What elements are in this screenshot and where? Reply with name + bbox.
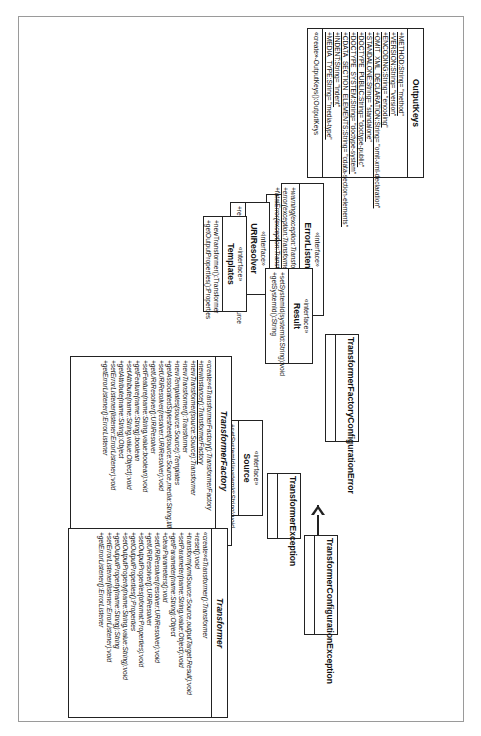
operations: +newTransformer():Transformer +getOutput… xyxy=(202,217,222,311)
operation: +setErrorListener(listener:ErrorListener… xyxy=(105,532,113,714)
attribute: +STANDALONE:String= "standalone" xyxy=(365,32,373,174)
class-transformer: Transformer «create»#Transformer():Trans… xyxy=(68,528,228,718)
attribute: +METHOD:String= "method" xyxy=(397,32,405,174)
operations: «create»#Transformer():Transformer +rese… xyxy=(95,529,211,717)
interface-templates: «interface» Templates +newTransformer():… xyxy=(203,216,247,312)
attribute: +OMIT_XML_DECLARATION:String= "omit-xml-… xyxy=(373,32,381,174)
interface-result: «interface» Result +setSystemId(systemId… xyxy=(265,268,313,364)
operation: +newTemplates(source:Source):Templates xyxy=(173,360,181,542)
stereotype: «interface» xyxy=(302,271,310,361)
class-transformerconfigurationexception: TransformerConfigurationException xyxy=(304,535,338,635)
class-name: TransformerFactoryConfigurationError xyxy=(346,337,356,439)
operation: +getOutputProperty(name:String):String xyxy=(113,532,121,714)
operation: +newInstance():TransformerFactory xyxy=(197,360,205,542)
operation: +getURIResolver():URIResolver xyxy=(149,360,157,542)
class-transformerfactory: TransformerFactory «create»#TransformerF… xyxy=(70,356,232,546)
attribute: +VERSION:String= "version" xyxy=(389,32,397,174)
class-outputkeys: OutputKeys +METHOD:String= "method" +VER… xyxy=(307,28,424,178)
class-transformerexception: TransformerException xyxy=(267,473,301,539)
class-header: Transformer xyxy=(211,529,227,717)
operation: +clearParameters():void xyxy=(161,532,169,714)
operation: +getSystemId():String xyxy=(270,272,278,360)
operation: +setSystemId(systemId:String):void xyxy=(278,272,286,360)
operation: +setErrorListener(listener:ErrorListener… xyxy=(109,360,117,542)
operation: +setOutputProperty(name:String,value:Str… xyxy=(121,532,129,714)
class-name: URIResolver xyxy=(249,205,259,292)
operation: +newTransformer(source:Source):Transform… xyxy=(189,360,197,542)
class-name: Result xyxy=(292,271,302,361)
operation: +getURIResolver():URIResolver xyxy=(145,532,153,714)
class-header: TransformerConfigurationException xyxy=(314,536,337,634)
operation: +getAssociatedStylesheet(source:Source,m… xyxy=(165,360,173,542)
attribute: +MEDIA_TYPE:String= "media-type" xyxy=(325,32,333,174)
generalization-arrowhead-inner xyxy=(314,509,322,515)
stereotype: «interface» xyxy=(252,423,260,513)
operation: +setFeature(name:String,value:boolean):v… xyxy=(141,360,149,542)
attribute: +DOCTYPE_SYSTEM:String= "doctype-system" xyxy=(349,32,357,174)
operation: +newTransformer():Transformer xyxy=(212,220,220,308)
operation: «create»-OutputKeys():OutputKeys xyxy=(312,32,320,174)
operation: +setOutputProperties(oformat:Properties)… xyxy=(137,532,145,714)
stereotype: «interface» xyxy=(313,186,321,313)
operation: +setParameter(name:String,value:Object):… xyxy=(177,532,185,714)
class-header: «interface» Result xyxy=(288,269,312,363)
operation: +reset():void xyxy=(193,532,201,714)
class-name: TransformerConfigurationException xyxy=(325,538,335,632)
class-header: «interface» Source xyxy=(238,421,262,515)
operation: +setURIResolver(resolver:URIResolver):vo… xyxy=(153,532,161,714)
operation: +setURIResolver(resolver:URIResolver):vo… xyxy=(157,360,165,542)
class-name: Source xyxy=(242,423,252,513)
operation: «create»#Transformer():Transformer xyxy=(201,532,209,714)
operation: «create»#TransformerFactory():Transforme… xyxy=(205,360,213,542)
class-name: OutputKeys xyxy=(411,31,421,175)
class-name: TransformerException xyxy=(288,476,298,536)
attribute: +INDENT:String= "indent" xyxy=(333,32,341,174)
operations: «create»#TransformerFactory():Transforme… xyxy=(99,357,215,545)
attribute: +DOCTYPE_PUBLIC:String= "doctype-public" xyxy=(357,32,365,174)
operation: +getParameter(name:String):Object xyxy=(169,532,177,714)
operations: «create»-OutputKeys():OutputKeys xyxy=(310,29,322,177)
operations: +setSystemId(systemId:String):void +getS… xyxy=(268,269,288,363)
class-transformerfactoryconfigurationerror: TransformerFactoryConfigurationError xyxy=(325,334,359,442)
attribute: +CDATA_SECTION_ELEMENTS:String= "cdata-s… xyxy=(341,32,349,174)
stereotype: «interface» xyxy=(236,219,244,309)
operation: +transform(xmlSource:Source,outputTarget… xyxy=(185,532,193,714)
operation: +newTransformer():Transformer xyxy=(181,360,189,542)
operation: +getAttribute(name:String):Object xyxy=(117,360,125,542)
operation: +getOutputProperties():Properties xyxy=(204,220,212,308)
operation: +getErrorListener():ErrorListener xyxy=(97,532,105,714)
operation: +getErrorListener():ErrorListener xyxy=(101,360,109,542)
class-header: «interface» Templates xyxy=(222,217,246,311)
class-header: TransformerException xyxy=(277,474,300,538)
class-name: TransformerFactory xyxy=(219,359,229,543)
attribute: +ENCODING:String= "encoding" xyxy=(381,32,389,174)
operation: +setAttribute(name:String,value:Object):… xyxy=(125,360,133,542)
class-header: TransformerFactory xyxy=(215,357,231,545)
class-header: TransformerFactoryConfigurationError xyxy=(335,335,358,441)
class-name: Transformer xyxy=(215,531,225,715)
operation: +getFeature(name:String):boolean xyxy=(133,360,141,542)
class-header: OutputKeys xyxy=(407,29,423,177)
operation: +getOutputProperties():Properties xyxy=(129,532,137,714)
class-name: Templates xyxy=(226,219,236,309)
attributes: +METHOD:String= "method" +VERSION:String… xyxy=(322,29,407,177)
